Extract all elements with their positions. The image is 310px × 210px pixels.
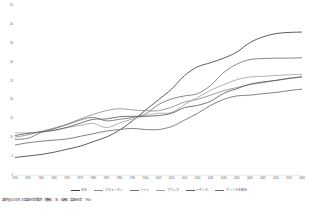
y-tick-label: 20 bbox=[10, 99, 13, 102]
y-tick-label: 10 bbox=[10, 137, 13, 140]
x-tick-label: 2005 bbox=[156, 177, 162, 180]
x-tick-label: 1955 bbox=[25, 177, 31, 180]
y-tick-label: 15 bbox=[10, 118, 13, 121]
chart-legend: 日本スウェーデンドイツフランスイギリスアメリカ合衆国 bbox=[15, 187, 302, 194]
series-line bbox=[15, 32, 302, 157]
legend-swatch bbox=[156, 190, 165, 191]
x-tick-label: 2020 bbox=[195, 177, 201, 180]
x-tick-label: 2015 bbox=[182, 177, 188, 180]
y-tick-label: 5 bbox=[12, 156, 13, 159]
x-tick-label: 1980 bbox=[90, 177, 96, 180]
legend-label: イギリス bbox=[196, 189, 208, 192]
x-tick-label: 2025 bbox=[208, 177, 214, 180]
x-tick-label: 1960 bbox=[38, 177, 44, 180]
series-group bbox=[15, 32, 302, 157]
plot-area bbox=[15, 6, 302, 176]
series-line bbox=[15, 89, 302, 145]
legend-item[interactable]: スウェーデン bbox=[94, 189, 123, 192]
x-tick-label: 2040 bbox=[247, 177, 253, 180]
x-tick-label: 2045 bbox=[260, 177, 266, 180]
legend-swatch bbox=[186, 190, 195, 191]
legend-label: フランス bbox=[167, 189, 179, 192]
legend-swatch bbox=[71, 190, 80, 191]
legend-swatch bbox=[215, 190, 224, 191]
y-tick-label: 45 bbox=[10, 5, 13, 8]
x-tick-label: 2030 bbox=[221, 177, 227, 180]
legend-item[interactable]: 日本 bbox=[71, 189, 88, 192]
legend-label: ドイツ bbox=[140, 189, 149, 192]
chart-caption: 諸外国と日本の高齢化率推移（横軸：年／縦軸：高齢化率（％）） bbox=[2, 198, 308, 203]
aging-rate-line-chart: 051015202530354045 195019551960196519701… bbox=[0, 0, 310, 210]
x-tick-label: 1990 bbox=[116, 177, 122, 180]
x-tick-label: 1970 bbox=[64, 177, 70, 180]
plot-svg bbox=[15, 6, 302, 176]
x-tick-label: 2010 bbox=[169, 177, 175, 180]
legend-label: 日本 bbox=[81, 189, 87, 192]
x-tick-label: 2035 bbox=[234, 177, 240, 180]
y-tick-label: 35 bbox=[10, 42, 13, 45]
x-tick-label: 1950 bbox=[12, 177, 18, 180]
x-axis: 1950195519601965197019751980198519901995… bbox=[15, 177, 302, 185]
x-tick-label: 2050 bbox=[273, 177, 279, 180]
y-tick-label: 40 bbox=[10, 24, 13, 27]
x-tick-label: 1995 bbox=[130, 177, 136, 180]
x-tick-label: 2055 bbox=[286, 177, 292, 180]
legend-swatch bbox=[130, 190, 139, 191]
legend-item[interactable]: ドイツ bbox=[130, 189, 150, 192]
x-tick-label: 2000 bbox=[143, 177, 149, 180]
legend-item[interactable]: フランス bbox=[156, 189, 179, 192]
y-axis: 051015202530354045 bbox=[0, 0, 15, 176]
series-line bbox=[15, 77, 302, 137]
y-tick-label: 30 bbox=[10, 61, 13, 64]
x-tick-label: 1965 bbox=[51, 177, 57, 180]
y-tick-label: 25 bbox=[10, 80, 13, 83]
legend-item[interactable]: イギリス bbox=[186, 189, 209, 192]
legend-label: スウェーデン bbox=[105, 189, 123, 192]
x-tick-label: 1985 bbox=[103, 177, 109, 180]
legend-label: アメリカ合衆国 bbox=[226, 189, 247, 192]
legend-item[interactable]: アメリカ合衆国 bbox=[215, 189, 247, 192]
x-tick-label: 2060 bbox=[299, 177, 305, 180]
x-tick-label: 1975 bbox=[77, 177, 83, 180]
legend-swatch bbox=[94, 190, 103, 191]
